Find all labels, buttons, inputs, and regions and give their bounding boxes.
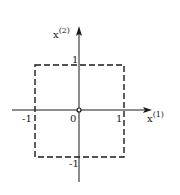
x1-axis-label-superscript: (1) [153, 110, 164, 119]
tick-label-origin: 0 [70, 114, 76, 124]
x2-axis-label-base: x [53, 29, 59, 40]
tick-label-x-pos: 1 [116, 114, 122, 124]
origin-marker-icon [77, 108, 81, 112]
x1-axis-label-base: x [147, 113, 153, 124]
x1-axis-label: x(1) [147, 114, 164, 124]
tick-label-y-pos: 1 [72, 55, 78, 65]
tick-label-y-neg: -1 [69, 159, 79, 169]
x2-axis-label-superscript: (2) [59, 26, 70, 35]
x2-axis-label: x(2) [53, 30, 70, 40]
diagram-canvas [0, 0, 180, 195]
tick-label-x-neg: -1 [22, 114, 32, 124]
unit-square-diagram: x(2) x(1) 1 -1 0 1 -1 [0, 0, 180, 195]
